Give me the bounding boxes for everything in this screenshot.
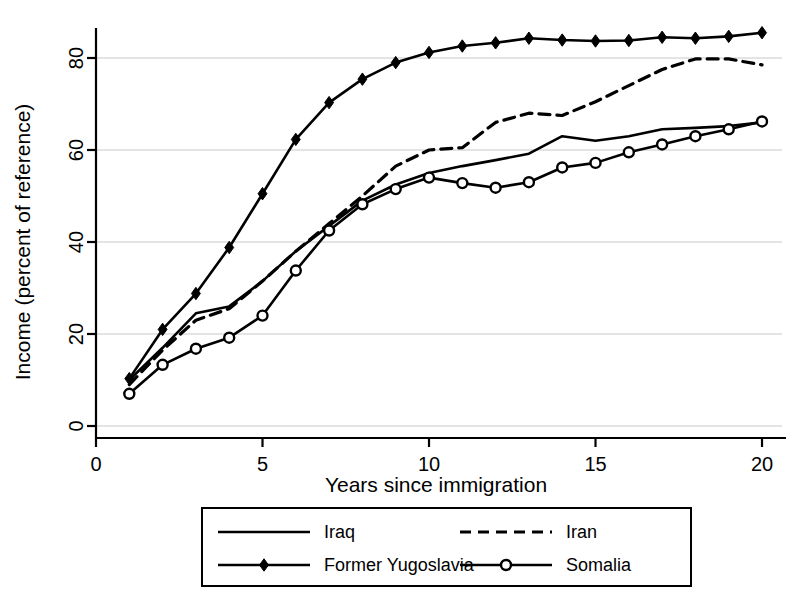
legend-label-former-yugoslavia: Former Yugoslavia: [324, 555, 475, 575]
marker-circle: [690, 131, 700, 141]
marker-circle: [624, 147, 634, 157]
marker-circle: [324, 226, 334, 236]
x-tick-label-20: 20: [751, 453, 773, 475]
marker-circle: [224, 333, 234, 343]
x-tick-label-5: 5: [257, 453, 268, 475]
marker-circle: [724, 124, 734, 134]
marker-circle: [191, 344, 201, 354]
x-tick-label-10: 10: [418, 453, 440, 475]
marker-circle: [357, 199, 367, 209]
marker-circle: [657, 139, 667, 149]
legend-label-iraq: Iraq: [324, 522, 355, 542]
marker-circle: [391, 184, 401, 194]
y-tick-label-0: 0: [65, 420, 87, 431]
marker-circle: [591, 158, 601, 168]
x-tick-label-0: 0: [90, 453, 101, 475]
marker-circle: [124, 389, 134, 399]
marker-circle: [158, 360, 168, 370]
marker-circle: [524, 177, 534, 187]
legend: IraqIranFormer YugoslaviaSomalia: [202, 508, 691, 586]
marker-circle: [291, 266, 301, 276]
marker-circle: [491, 183, 501, 193]
x-tick-label-15: 15: [584, 453, 606, 475]
marker-circle: [258, 311, 268, 321]
y-tick-label-40: 40: [65, 231, 87, 253]
income-by-origin-line-chart: 02040608005101520 Years since immigratio…: [0, 0, 802, 605]
y-tick-label-80: 80: [65, 47, 87, 69]
legend-label-iran: Iran: [566, 522, 597, 542]
marker-circle: [457, 178, 467, 188]
marker-circle: [424, 173, 434, 183]
chart-figure: 02040608005101520 Years since immigratio…: [0, 0, 802, 605]
y-axis-label: Income (percent of reference): [11, 104, 34, 381]
marker-circle: [557, 162, 567, 172]
legend-marker-circle-somalia: [501, 560, 511, 570]
y-tick-label-20: 20: [65, 323, 87, 345]
marker-circle: [757, 116, 767, 126]
y-tick-label-60: 60: [65, 139, 87, 161]
x-axis-label: Years since immigration: [325, 473, 547, 496]
legend-label-somalia: Somalia: [566, 555, 632, 575]
